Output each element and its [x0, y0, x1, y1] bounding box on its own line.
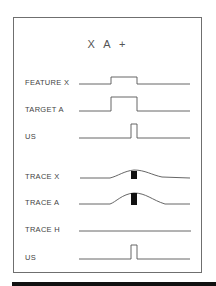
waveform-diagram [0, 0, 216, 286]
waveform-us-2 [79, 245, 190, 259]
waveform-feature-x [79, 77, 190, 84]
waveform-us-1 [79, 124, 190, 138]
trace-x-marker [131, 171, 137, 179]
trace-a-marker [131, 193, 137, 205]
waveform-target-a [79, 97, 190, 111]
bottom-bar [12, 282, 216, 286]
